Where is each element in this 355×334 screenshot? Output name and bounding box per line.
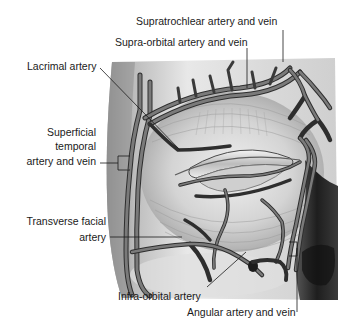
label-angular: Angular artery and vein (187, 306, 296, 318)
eye-vessels-illustration (0, 0, 355, 334)
label-transverse-facial-line2: artery (0, 231, 106, 243)
label-superficial-temporal-line1: Superficial (0, 126, 96, 138)
label-transverse-facial-line1: Transverse facial (0, 215, 106, 227)
label-lacrimal: Lacrimal artery (27, 60, 96, 72)
label-supraorbital: Supra-orbital artery and vein (115, 36, 248, 48)
anatomy-figure: Supratrochlear artery and vein Supra-orb… (0, 0, 355, 334)
label-superficial-temporal-line3: artery and vein (0, 155, 96, 167)
label-supratrochlear: Supratrochlear artery and vein (136, 15, 277, 27)
label-superficial-temporal-line2: temporal (0, 140, 96, 152)
label-infraorbital: Infra-orbital artery (118, 290, 201, 302)
